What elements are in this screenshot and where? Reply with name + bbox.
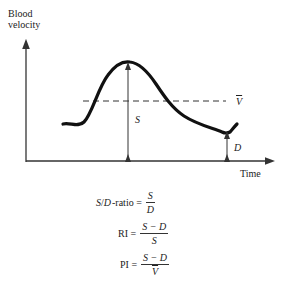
sd-fraction: S D	[146, 190, 155, 215]
velocity-waveform	[63, 62, 237, 133]
systolic-label: S	[135, 114, 140, 125]
y-axis-label-line2: velocity	[8, 19, 40, 30]
sd-numerator: S	[146, 190, 155, 203]
sd-lhs-rest: -ratio =	[112, 197, 142, 208]
pi-fraction: S − D V	[141, 252, 169, 277]
ri-fraction: S − D S	[140, 221, 168, 246]
y-axis-label-line1: Blood	[8, 8, 40, 19]
sd-ratio-equation: S/D-ratio = S D	[96, 190, 155, 215]
pi-denominator: V	[152, 265, 158, 277]
x-axis-label: Time	[240, 168, 261, 179]
mean-velocity-label: V	[236, 96, 242, 107]
ri-equation: RI = S − D S	[118, 221, 168, 246]
diastolic-label: D	[234, 142, 241, 153]
pi-numerator: S − D	[141, 252, 169, 265]
pi-equation: PI = S − D V	[120, 252, 169, 277]
sd-lhs-d: D	[104, 197, 111, 208]
ri-numerator: S − D	[140, 221, 168, 234]
ri-lhs: RI =	[118, 228, 136, 239]
pi-lhs: PI =	[120, 259, 137, 270]
y-axis-label: Blood velocity	[8, 8, 40, 30]
ri-denominator: S	[152, 234, 157, 246]
sd-denominator: D	[147, 203, 154, 215]
